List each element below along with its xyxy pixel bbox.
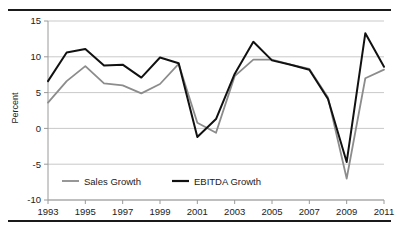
x-tick-label-2005: 2005 [261, 206, 282, 217]
x-tick-label-2001: 2001 [187, 206, 208, 217]
chart-legend: Sales GrowthEBITDA Growth [62, 176, 261, 187]
legend-label-2: EBITDA Growth [194, 176, 261, 187]
y-axis-title: Percent [10, 92, 20, 124]
legend-label-1: Sales Growth [84, 176, 141, 187]
y-tick-marks [44, 21, 48, 200]
x-tick-marks [48, 200, 384, 204]
x-tick-labels: 1993199519971999200120032005200720092011 [37, 206, 394, 217]
y-tick-label-10: 10 [30, 51, 41, 62]
y-tick-label-15: 15 [30, 15, 41, 26]
line-chart: -10-5051015 1993199519971999200120032005… [0, 0, 399, 232]
axis-lines [48, 21, 384, 200]
x-tick-label-1999: 1999 [149, 206, 170, 217]
x-tick-label-2011: 2011 [374, 206, 394, 217]
y-tick-label-0: 0 [36, 123, 41, 134]
x-tick-label-1995: 1995 [75, 206, 96, 217]
y-tick-labels: -10-5051015 [27, 15, 41, 205]
series-line-ebitda-growth [48, 33, 384, 162]
y-tick-label--5: -5 [33, 159, 41, 170]
chart-figure: -10-5051015 1993199519971999200120032005… [0, 0, 399, 232]
x-tick-label-2003: 2003 [224, 206, 245, 217]
x-tick-label-2007: 2007 [299, 206, 320, 217]
x-tick-label-2009: 2009 [336, 206, 357, 217]
x-tick-label-1997: 1997 [112, 206, 133, 217]
y-tick-label-5: 5 [36, 87, 41, 98]
x-tick-label-1993: 1993 [37, 206, 58, 217]
gridlines [48, 21, 384, 200]
y-tick-label--10: -10 [27, 194, 41, 205]
data-series-layer [48, 33, 384, 178]
